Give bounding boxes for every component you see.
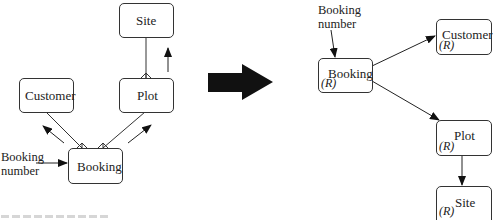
entity-label: Site: [136, 13, 156, 29]
key-label-right: Booking number: [318, 3, 361, 31]
entity-tag: (R): [439, 204, 454, 219]
entity-label: Plot: [137, 88, 158, 104]
key-label-line1: Booking: [318, 3, 361, 17]
transform-arrow-icon: [208, 64, 273, 100]
line-plot-booking: [103, 112, 145, 148]
key-label-left: Booking number: [1, 150, 44, 178]
entity-site-right: Site (R): [436, 186, 492, 220]
entity-plot-left: Plot: [119, 78, 174, 113]
entity-booking-left: Booking: [68, 148, 123, 184]
entity-tag: (R): [439, 139, 454, 154]
entity-booking-right: Booking (R): [318, 58, 373, 93]
entity-label: Site: [455, 195, 475, 211]
entity-customer-left: Customer: [19, 78, 74, 113]
entity-plot-right: Plot (R): [436, 120, 492, 156]
arrow-up-right-icon: [128, 125, 151, 143]
arrow-up-left-icon: [43, 126, 64, 143]
key-label-line2: number: [318, 17, 361, 31]
diagram-canvas: [0, 0, 494, 220]
arrow-booking-customer-icon: [372, 36, 435, 66]
entity-site-left: Site: [119, 3, 174, 38]
arrow-booking-plot-icon: [372, 81, 439, 120]
entity-label: Customer: [25, 88, 76, 104]
key-label-line1: Booking: [1, 150, 44, 164]
entity-tag: (R): [321, 76, 336, 91]
cut-off-caption: [1, 215, 111, 218]
key-label-line2: number: [1, 164, 44, 178]
entity-customer-right: Customer (R): [436, 19, 492, 55]
entity-label: Booking: [77, 159, 122, 175]
entity-label: Plot: [454, 128, 475, 144]
arrow-key-entry-icon: [331, 30, 335, 57]
entity-tag: (R): [439, 38, 454, 53]
